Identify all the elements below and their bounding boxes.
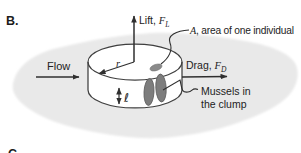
drag-label-text: Drag, [186,59,215,71]
drag-arrow [182,77,227,78]
panel-label-c: C. [8,147,21,153]
individual-area-label: A, area of one individual [189,25,294,36]
lift-force-label: Lift, FL [139,14,169,29]
drag-force-subscript: D [220,65,227,74]
height-symbol-label: ℓ [123,91,129,105]
lift-force-subscript: L [164,20,169,29]
clump-cylinder-top [88,44,182,80]
lift-label-text: Lift, [139,14,159,26]
panel-label-b: B. [6,14,19,28]
mussels-label-line2: the clump [201,98,247,110]
mussels-label-line1: Mussels in [201,85,251,97]
figure-panel-b: B. Lift, FL A, area of one individual Fl… [0,0,301,153]
flow-label: Flow [47,60,70,72]
mussel-clump-diagram: B. Lift, FL A, area of one individual Fl… [0,0,301,153]
area-label-text: , area of one individual [196,25,294,36]
